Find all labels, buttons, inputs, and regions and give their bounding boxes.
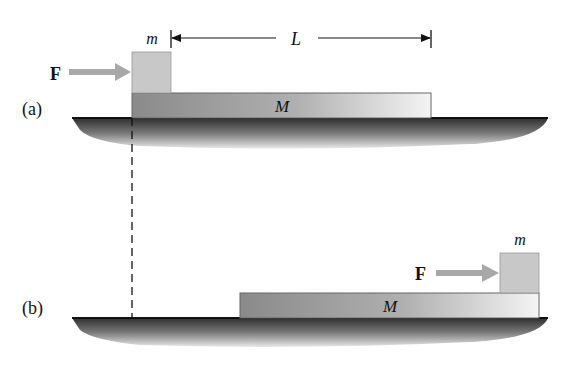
panel-label-b: (b): [22, 298, 43, 319]
large-block-label-b: M: [382, 297, 398, 316]
ground-surface-b: [72, 318, 548, 347]
force-label-b: F: [415, 264, 426, 284]
panel-a: M m F (a) L: [22, 29, 548, 149]
ground-surface-a: [72, 118, 548, 149]
force-arrow-b: [436, 264, 499, 282]
panel-b: M m F (b): [22, 231, 548, 347]
small-block-b: [500, 253, 539, 293]
length-label: L: [290, 29, 301, 49]
force-label-a: F: [50, 64, 61, 84]
panel-label-a: (a): [22, 99, 42, 120]
small-block-label-a: m: [146, 30, 158, 47]
force-arrow-a: [69, 63, 131, 81]
large-block-label-a: M: [274, 97, 290, 116]
small-block-label-b: m: [514, 231, 526, 248]
small-block-a: [132, 52, 171, 93]
physics-diagram: M m F (a) L M m: [0, 0, 564, 369]
